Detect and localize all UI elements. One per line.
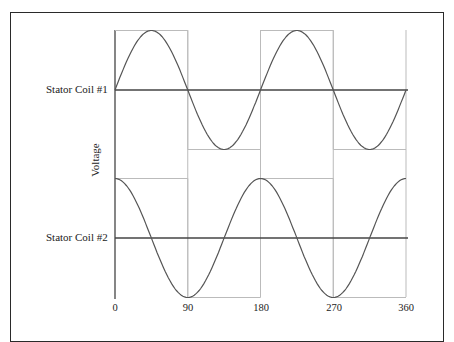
x-tick-0: 0 <box>112 302 117 313</box>
coil-1-label: Stator Coil #1 <box>46 83 108 95</box>
coil-2-label: Stator Coil #2 <box>46 231 108 243</box>
y-axis-label: Voltage <box>89 135 101 185</box>
x-tick-90: 90 <box>183 302 194 313</box>
x-tick-180: 180 <box>253 302 269 313</box>
x-tick-270: 270 <box>326 302 342 313</box>
x-tick-360: 360 <box>398 302 414 313</box>
